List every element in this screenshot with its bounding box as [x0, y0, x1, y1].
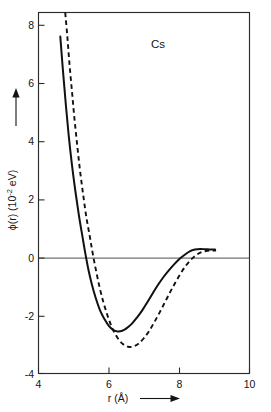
- plot-frame: [39, 13, 250, 374]
- x-axis-title-unit: Å: [118, 392, 125, 404]
- y-tick-label-neg4: -4: [25, 368, 34, 380]
- x-axis-ticks: [39, 368, 250, 374]
- x-axis-title-text: r (: [108, 392, 118, 404]
- x-tick-label-4: 4: [36, 378, 42, 390]
- y-axis-title-tail: eV): [6, 170, 18, 189]
- solid-potential-curve: [60, 37, 215, 332]
- figure-container: 8 6 4 2 0 -2 -4 4 6 8 10 Cs ϕ(r) (10-2 e…: [0, 0, 271, 412]
- x-tick-label-8: 8: [177, 378, 183, 390]
- y-tick-label-2: 2: [28, 193, 34, 205]
- y-axis-title-exponent: -2: [5, 189, 14, 196]
- x-tick-label-10: 10: [244, 378, 256, 390]
- right-arrow-icon: [140, 395, 180, 402]
- x-axis-title: r (Å): [108, 392, 128, 404]
- y-tick-label-6: 6: [28, 77, 34, 89]
- y-axis-ticks: [39, 25, 45, 373]
- x-axis-title-close: ): [125, 392, 129, 404]
- pair-potential-chart: 8 6 4 2 0 -2 -4 4 6 8 10 Cs ϕ(r) (10-2 e…: [0, 0, 271, 412]
- y-tick-label-neg2: -2: [25, 310, 34, 322]
- dashed-potential-curve: [65, 13, 216, 347]
- y-axis-title: ϕ(r) (10-2 eV): [5, 170, 18, 230]
- series-annotation-cs: Cs: [151, 38, 165, 50]
- y-tick-label-0: 0: [28, 252, 34, 264]
- y-axis-title-phi: ϕ(r) (10: [6, 196, 18, 231]
- y-tick-label-4: 4: [28, 135, 34, 147]
- y-axis-title-text: ϕ(r) (10-2 eV): [5, 170, 18, 230]
- up-arrow-icon: [12, 88, 19, 126]
- x-tick-label-6: 6: [106, 378, 112, 390]
- y-tick-label-8: 8: [28, 19, 34, 31]
